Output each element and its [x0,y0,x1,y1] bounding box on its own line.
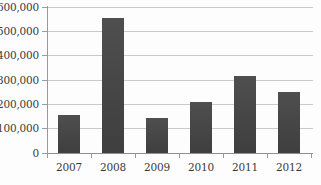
x-axis-label-2007: 2007 [47,161,91,173]
y-tick-300000 [42,80,47,81]
gridline-baseline-0 [47,153,313,154]
bar-2008 [102,18,124,154]
gridline-500000 [47,31,313,32]
x-axis-label-2012: 2012 [267,161,311,173]
x-tick-end [311,153,312,158]
x-tick-2008 [91,153,92,158]
y-axis-label-500000: 500,000 [0,25,39,37]
bar-2007 [58,115,80,153]
gridline-100000 [47,128,313,129]
y-axis-label-300000: 300,000 [0,74,39,86]
plot-area [47,7,313,153]
y-axis-label-200000: 200,000 [0,98,39,110]
gridline-200000 [47,104,313,105]
x-axis-label-2011: 2011 [223,161,267,173]
y-axis-spine [47,6,48,154]
x-tick-2007 [47,153,48,158]
bar-2011 [234,76,256,153]
x-axis-label-2009: 2009 [135,161,179,173]
y-tick-600000 [42,7,47,8]
bar-2009 [146,118,168,153]
y-axis-label-400000: 400,000 [0,49,39,61]
y-tick-500000 [42,31,47,32]
y-tick-100000 [42,128,47,129]
x-tick-2009 [135,153,136,158]
x-tick-2012 [267,153,268,158]
gridline-300000 [47,80,313,81]
y-axis-label-600000: 600,000 [0,1,39,13]
y-axis-label-0: 0 [33,147,39,159]
y-tick-400000 [42,55,47,56]
x-tick-2011 [223,153,224,158]
x-tick-2010 [179,153,180,158]
gridline-600000 [47,7,313,8]
y-axis-label-100000: 100,000 [0,122,39,134]
x-axis-label-2010: 2010 [179,161,223,173]
gridline-400000 [47,55,313,56]
x-axis-label-2008: 2008 [91,161,135,173]
bar-chart: 600,000 500,000 400,000 300,000 200,000 … [0,0,321,185]
bar-2010 [190,102,212,153]
bar-2012 [278,92,300,153]
y-tick-200000 [42,104,47,105]
